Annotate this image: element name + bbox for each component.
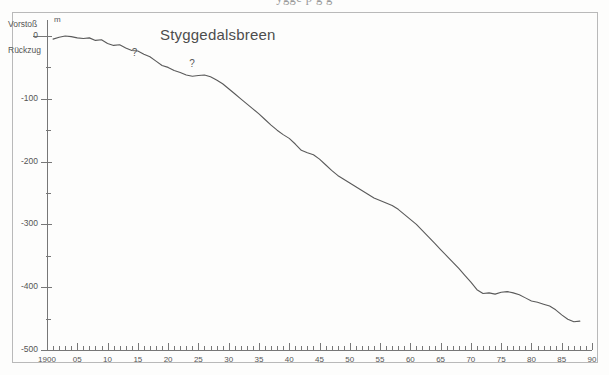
y-tick-label: -200 [0, 156, 38, 166]
y-axis-label-retreat: Rückzug [8, 45, 41, 55]
chart-series [53, 36, 580, 322]
x-tick-label: 90 [572, 355, 609, 364]
annotation-question-mark: ? [189, 58, 195, 69]
y-tick-label: -400 [0, 281, 38, 291]
figure-container: ygge p g g Styggedalsbreen 0-100-200-300… [0, 0, 609, 375]
y-axis-label-advance: Vorstoß [8, 19, 37, 29]
y-tick-label: 0 [0, 30, 38, 40]
annotation-question-mark: ? [132, 47, 138, 58]
y-tick-label: -100 [0, 93, 38, 103]
chart-axes [33, 20, 593, 351]
data-line-styggedalsbreen [53, 36, 580, 322]
y-tick-label: -300 [0, 218, 38, 228]
chart-plot-area [0, 0, 609, 375]
y-axis-unit-label: m [54, 15, 61, 24]
y-tick-label: -500 [0, 344, 38, 354]
